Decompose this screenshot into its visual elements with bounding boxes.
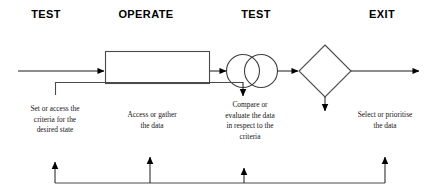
operate-process-box (106, 52, 210, 84)
exit-decision-diamond (299, 45, 351, 97)
caption-compare-data: Compare or evaluate the data in respect … (202, 100, 298, 142)
criteria-branch-line (56, 83, 244, 96)
flow-graphics (0, 0, 436, 196)
caption-access-data: Access or gather the data (102, 110, 202, 131)
caption-select-data: Select or prioritise the data (335, 110, 435, 131)
caption-set-criteria: Set or access the criteria for the desir… (7, 104, 103, 136)
tote-flow-diagram: TEST OPERATE TEST EXIT (0, 0, 436, 196)
